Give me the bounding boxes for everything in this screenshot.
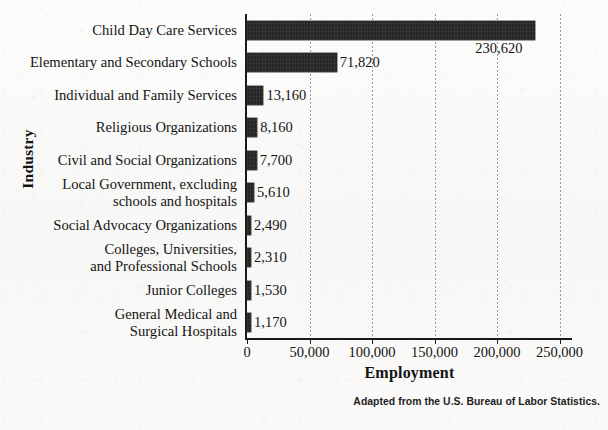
bar-value-label: 7,700 (260, 152, 293, 169)
bar-value-label: 8,160 (260, 119, 293, 136)
bar-row: 8,160 (247, 112, 572, 144)
bar-row: 1,170 (247, 307, 572, 339)
category-label: Individual and Family Services (0, 79, 242, 111)
bar-value-label: 5,610 (257, 184, 290, 201)
bar (247, 118, 257, 137)
bar-row: 230,620 (247, 14, 572, 46)
x-axis-tick-label: 100,000 (348, 344, 395, 361)
x-axis-line (245, 338, 572, 340)
x-axis-tick-label: 200,000 (473, 344, 520, 361)
plot-area: 230,62071,82013,1608,1607,7005,6102,4902… (247, 14, 572, 339)
source-note: Adapted from the U.S. Bureau of Labor St… (353, 396, 600, 407)
bar-value-label: 13,160 (266, 87, 306, 104)
bar-row: 71,820 (247, 47, 572, 79)
bar (247, 313, 251, 332)
bar (247, 21, 535, 40)
category-label: General Medical andSurgical Hospitals (0, 307, 242, 339)
bar-row: 1,530 (247, 274, 572, 306)
bar (247, 53, 337, 72)
category-label: Colleges, Universities,and Professional … (0, 242, 242, 274)
category-label: Local Government, excludingschools and h… (0, 177, 242, 209)
bar-series: 230,62071,82013,1608,1607,7005,6102,4902… (247, 14, 572, 339)
bar-row: 2,490 (247, 209, 572, 241)
bar (247, 183, 254, 202)
bar (247, 248, 251, 267)
y-axis-line (245, 14, 247, 339)
category-label-line: Civil and Social Organizations (58, 152, 237, 169)
bar-value-label: 2,310 (254, 249, 287, 266)
category-label-line: and Professional Schools (90, 258, 237, 275)
category-label-line: Colleges, Universities, (104, 241, 237, 258)
x-axis-tick-label: 150,000 (411, 344, 458, 361)
category-label-line: schools and hospitals (113, 193, 237, 210)
category-label-column: Child Day Care ServicesElementary and Se… (0, 14, 242, 339)
bar-value-label: 71,820 (340, 54, 380, 71)
category-label: Civil and Social Organizations (0, 144, 242, 176)
bar (247, 216, 251, 235)
bar-value-label: 1,530 (254, 282, 287, 299)
category-label-line: Elementary and Secondary Schools (30, 54, 237, 71)
bar-value-label: 2,490 (254, 217, 287, 234)
x-axis-title: Employment (247, 364, 572, 382)
bar (247, 151, 257, 170)
category-label-line: Religious Organizations (96, 119, 237, 136)
x-axis-tick-label: 50,000 (290, 344, 330, 361)
category-label-line: Surgical Hospitals (130, 323, 237, 340)
category-label-line: Social Advocacy Organizations (53, 217, 237, 234)
bar-row: 5,610 (247, 177, 572, 209)
bar-row: 7,700 (247, 144, 572, 176)
category-label: Child Day Care Services (0, 14, 242, 46)
category-label: Elementary and Secondary Schools (0, 47, 242, 79)
chart-page: Industry Child Day Care ServicesElementa… (0, 0, 608, 430)
x-axis-tick-label: 0 (243, 344, 250, 361)
category-label-line: Local Government, excluding (62, 176, 237, 193)
category-label-line: Child Day Care Services (92, 22, 237, 39)
category-label: Social Advocacy Organizations (0, 209, 242, 241)
bar-row: 13,160 (247, 79, 572, 111)
bar (247, 281, 251, 300)
category-label-line: Junior Colleges (146, 282, 237, 299)
category-label: Religious Organizations (0, 112, 242, 144)
x-axis-tick-label: 250,000 (536, 344, 583, 361)
category-label-line: General Medical and (115, 306, 237, 323)
bar-row: 2,310 (247, 242, 572, 274)
category-label: Junior Colleges (0, 274, 242, 306)
bar-value-label: 1,170 (254, 314, 287, 331)
category-label-line: Individual and Family Services (54, 87, 237, 104)
bar (247, 86, 263, 105)
